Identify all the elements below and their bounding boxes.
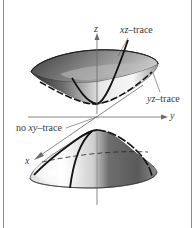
y-axis-label: y	[170, 111, 174, 121]
y-axis-arrow-icon	[161, 115, 168, 120]
hyperboloid-figure: z xz–trace yz–trace no xy–trace y x	[0, 0, 196, 228]
yz-trace-leader	[153, 73, 160, 92]
upper-sheet	[31, 40, 158, 104]
no-xy-trace-suffix: –trace	[37, 122, 61, 133]
xz-trace-suffix: –trace	[128, 24, 152, 35]
no-xy-trace-leader	[66, 117, 97, 128]
no-xy-trace-label: no xy–trace	[16, 123, 62, 133]
x-axis-label: x	[25, 156, 29, 166]
x-axis-arrow-icon	[34, 152, 44, 160]
yz-trace-label: yz–trace	[147, 94, 180, 104]
yz-trace-suffix: –trace	[155, 93, 179, 104]
z-axis-arrow-icon	[95, 33, 100, 40]
xz-trace-label: xz–trace	[120, 25, 153, 35]
z-axis-label: z	[94, 24, 98, 34]
no-xy-trace-prefix: no	[16, 122, 29, 133]
hyperboloid-diagram	[0, 0, 196, 228]
lower-sheet	[30, 130, 157, 188]
